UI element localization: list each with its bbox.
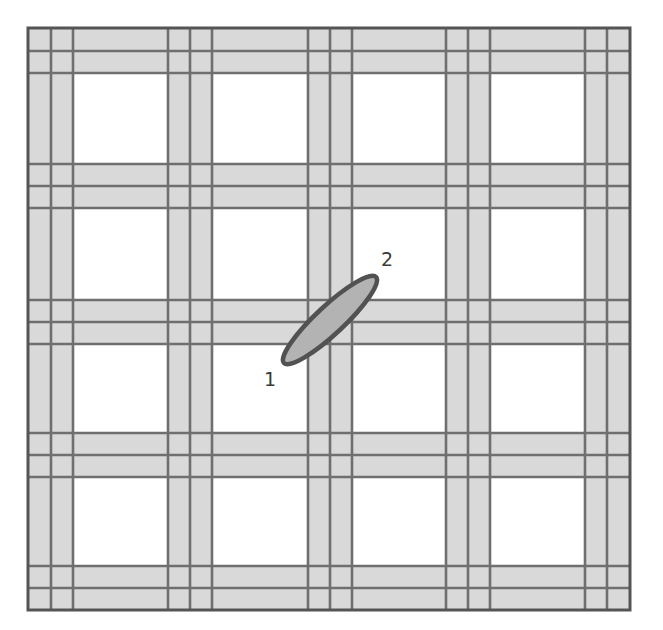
label-point-2: 2 (381, 250, 393, 269)
label-point-1: 1 (264, 370, 276, 389)
grid-diagram (0, 0, 663, 630)
